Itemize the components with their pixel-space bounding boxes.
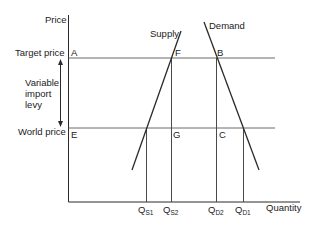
point-f-label: F — [175, 47, 181, 58]
point-c-label: C — [219, 129, 226, 140]
demand-label: Demand — [209, 20, 245, 31]
levy-label-line-2: import — [25, 88, 52, 99]
demand-curve — [204, 22, 259, 170]
world-price-label: World price — [18, 126, 66, 137]
point-a-label: A — [71, 47, 78, 58]
y-axis-label: Price — [45, 14, 67, 25]
supply-curve — [132, 31, 181, 170]
point-e-label: E — [71, 129, 77, 140]
levy-label-line-1: Variable — [25, 77, 59, 88]
qd2-label: QD2 — [208, 204, 224, 216]
qs1-label: QS1 — [138, 204, 154, 216]
point-g-label: G — [173, 129, 180, 140]
qd1-label: QD1 — [235, 204, 251, 216]
levy-label-line-3: levy — [25, 99, 42, 110]
levy-arrow-up-icon — [58, 59, 63, 65]
supply-label: Supply — [150, 28, 179, 39]
target-price-label: Target price — [15, 47, 65, 58]
x-axis-label: Quantity — [266, 202, 302, 213]
qs2-label: QS2 — [163, 204, 179, 216]
import-levy-diagram: Price Quantity Target price World price … — [0, 0, 316, 225]
point-b-label: B — [217, 47, 223, 58]
